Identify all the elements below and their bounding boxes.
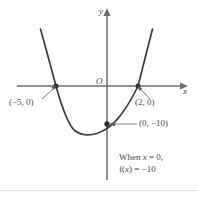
note-line-1-prefix: When xyxy=(119,152,143,162)
x-axis-label: x xyxy=(183,86,187,96)
bottom-divider xyxy=(0,190,197,191)
label-y-intercept: (0, −10) xyxy=(139,118,168,128)
callout-arrow-y-intercept xyxy=(109,121,137,126)
quadratic-graph-figure: (−5, 0) (2, 0) (0, −10) y x O When x = 0… xyxy=(0,0,197,197)
note-line-2-suffix: ) = −10 xyxy=(129,164,156,174)
y-axis-label: y xyxy=(99,6,103,16)
note-line-1: When x = 0, xyxy=(119,151,163,163)
point-marker-y-intercept xyxy=(104,121,109,126)
y-axis-arrowhead xyxy=(103,8,110,16)
explanatory-note: When x = 0, f(x) = −10 xyxy=(119,151,163,175)
note-line-2: f(x) = −10 xyxy=(119,163,163,175)
origin-label: O xyxy=(96,76,103,86)
note-line-1-suffix: = 0, xyxy=(147,152,163,162)
label-right-root: (2, 0) xyxy=(135,97,155,107)
callout-arrow-left-root xyxy=(42,86,57,99)
label-left-root: (−5, 0) xyxy=(9,97,34,107)
